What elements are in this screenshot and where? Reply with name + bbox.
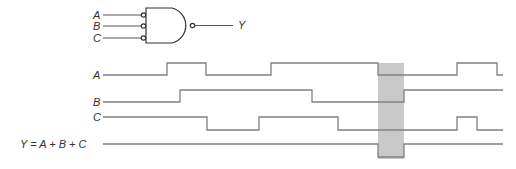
waveform-b: [103, 90, 503, 102]
waveform-c: [103, 117, 503, 130]
gate-output-label: Y: [238, 19, 246, 31]
nand-timing-diagram: A B C Y A B C Y = A + B + C: [0, 0, 516, 169]
highlight-band: [378, 63, 404, 159]
wave-label-y: Y = A + B + C: [20, 138, 87, 150]
waveform-y: [103, 144, 503, 157]
gate-input-label-c: C: [93, 32, 101, 44]
wave-label-b: B: [93, 96, 100, 108]
and-gate-body: [146, 8, 186, 43]
input-bubble-c: [141, 36, 145, 40]
wave-label-a: A: [92, 69, 100, 81]
input-bubble-a: [141, 13, 145, 17]
input-bubble-b: [141, 24, 145, 28]
gate-input-label-b: B: [93, 20, 100, 32]
wave-label-c: C: [93, 111, 101, 123]
logic-gate: A B C Y: [92, 8, 246, 44]
waveform-a: [103, 63, 503, 75]
output-bubble: [190, 23, 194, 27]
